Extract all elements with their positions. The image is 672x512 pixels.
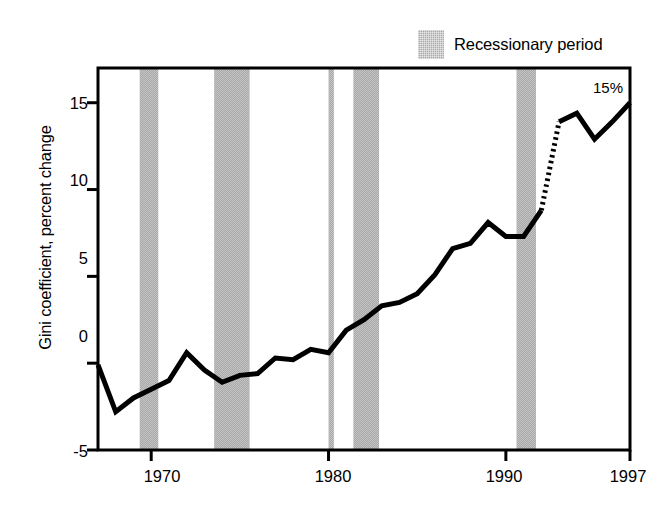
plot-area [0,0,672,512]
recession-band [517,68,537,450]
recession-band [329,68,334,450]
recession-bands [140,68,536,450]
data-line [98,210,541,411]
gini-coefficient-chart: Recessionary period Gini coefficient, pe… [0,0,672,512]
recession-band [214,68,249,450]
recession-band [353,68,379,450]
data-line [559,103,630,139]
data-line [541,122,559,211]
